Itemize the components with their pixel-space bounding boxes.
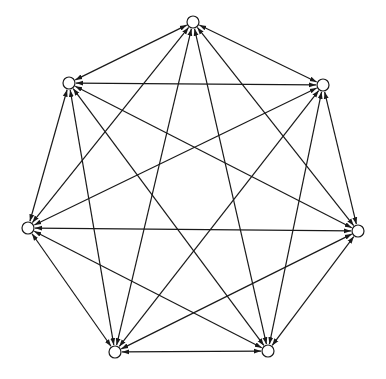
node-n2 <box>317 79 329 91</box>
edge-n2-n3 <box>34 88 316 225</box>
node-n0 <box>187 16 199 28</box>
edges-layer <box>30 25 356 352</box>
edge-n0-n6 <box>195 29 267 344</box>
node-n4 <box>352 225 364 237</box>
node-n1 <box>63 77 75 89</box>
edge-n0-n2 <box>199 25 316 82</box>
edge-n2-n5 <box>119 91 318 347</box>
node-n3 <box>22 222 34 234</box>
edge-n1-n2 <box>76 83 316 85</box>
edge-n1-n4 <box>75 86 352 228</box>
graph-canvas <box>0 0 386 379</box>
edge-n0-n3 <box>32 27 188 222</box>
edge-n2-n6 <box>269 92 321 344</box>
edge-n0-n1 <box>75 25 186 80</box>
edge-n0-n5 <box>117 29 192 345</box>
node-n5 <box>109 346 121 358</box>
node-n6 <box>262 345 274 357</box>
edge-n4-n5 <box>121 234 351 349</box>
edge-n5-n6 <box>122 351 261 352</box>
edge-n2-n4 <box>325 92 357 224</box>
edge-n3-n6 <box>34 231 262 348</box>
edge-n0-n4 <box>197 27 353 225</box>
edge-n3-n4 <box>35 228 351 231</box>
nodes-layer <box>22 16 364 358</box>
